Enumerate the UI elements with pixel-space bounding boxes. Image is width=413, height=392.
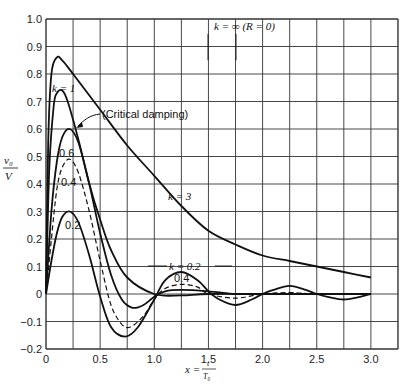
x-tick-label: 2.0 xyxy=(255,353,270,365)
y-tick-label: 0 xyxy=(36,288,42,300)
label-k04: 0.4 xyxy=(61,176,76,188)
x-tick-label: 0.5 xyxy=(93,353,108,365)
x-label-den: T₀ xyxy=(203,372,210,381)
y-tick-label: 0.2 xyxy=(27,233,42,245)
x-tick-label: 0 xyxy=(43,353,49,365)
y-tick-label: 0.4 xyxy=(27,178,42,190)
label-k-infinity: k = ∞ (R = 0) xyxy=(214,20,275,33)
y-tick-label: 0.9 xyxy=(27,41,42,53)
x-tick-label: 1.0 xyxy=(147,353,162,365)
y-tick-label: 0.3 xyxy=(27,206,42,218)
y-tick-label: 0.6 xyxy=(27,123,42,135)
y-tick-label: −0.1 xyxy=(20,316,42,328)
x-tick-label: 3.0 xyxy=(363,353,378,365)
y-tick-label: 0.1 xyxy=(27,261,42,273)
label-critical-damping: (Critical damping) xyxy=(102,108,188,120)
chart: 00.51.01.52.02.53.01.00.90.80.70.60.50.4… xyxy=(0,0,413,392)
y-tick-label: −0.2 xyxy=(20,343,42,355)
label-k06: 0.6 xyxy=(59,147,74,159)
axis-ticks: 00.51.01.52.02.53.01.00.90.80.70.60.50.4… xyxy=(20,13,378,365)
y-tick-label: 1.0 xyxy=(27,13,42,25)
x-label: x = xyxy=(184,363,200,375)
label-k02: 0.2 xyxy=(65,219,80,231)
y-label-num: v₀ xyxy=(4,154,13,166)
y-tick-label: 0.8 xyxy=(27,68,42,80)
label-k3: k = 3 xyxy=(168,190,192,202)
y-tick-label: 0.5 xyxy=(27,151,42,163)
y-label-den: V xyxy=(5,170,13,182)
label-k1: k = 1 xyxy=(52,82,75,94)
y-tick-label: 0.7 xyxy=(27,96,42,108)
label-k02-right: k = 0.2 xyxy=(169,260,201,272)
x-tick-label: 2.5 xyxy=(309,353,324,365)
label-k04-right: 0.4 xyxy=(174,272,189,284)
